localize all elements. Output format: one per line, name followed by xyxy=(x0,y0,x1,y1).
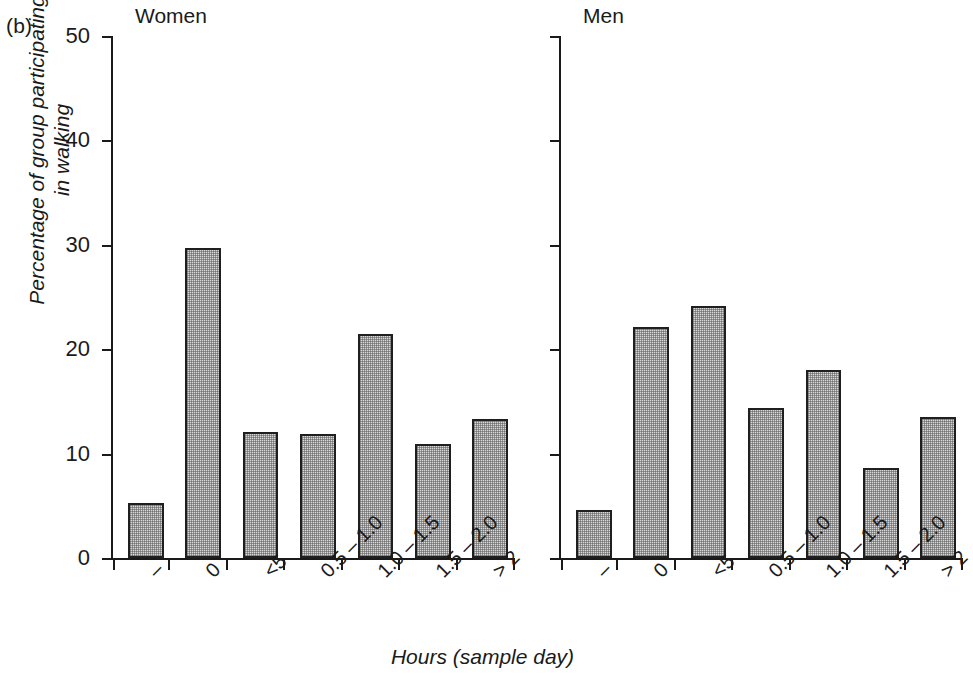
y-axis-tick xyxy=(102,245,112,247)
plot-area-men xyxy=(561,36,963,558)
x-axis-category-label: 0 xyxy=(201,558,225,582)
chart-panel-men: Men xyxy=(559,36,963,560)
x-axis-category-label: 0 xyxy=(649,558,673,582)
bar xyxy=(300,434,336,558)
x-axis-tick xyxy=(226,560,228,570)
y-axis-tick xyxy=(102,140,112,142)
x-axis-tick xyxy=(616,560,618,570)
y-axis-tick xyxy=(550,558,560,560)
y-axis-tick-labels: 01020304050 xyxy=(42,0,90,680)
panel-title-women: Women xyxy=(135,4,207,28)
x-axis-tick xyxy=(561,560,563,570)
bar xyxy=(243,432,279,558)
x-axis-tick xyxy=(113,560,115,570)
y-axis-tick-label: 0 xyxy=(44,545,90,571)
x-axis-category-label: – xyxy=(144,558,168,582)
bar xyxy=(691,306,727,558)
y-axis-tick-label: 20 xyxy=(44,336,90,362)
y-axis-tick-label: 50 xyxy=(44,23,90,49)
bar xyxy=(185,248,221,558)
y-axis-tick xyxy=(550,349,560,351)
y-axis-tick xyxy=(550,245,560,247)
panel-title-men: Men xyxy=(583,4,624,28)
x-axis-category-label: – xyxy=(592,558,616,582)
y-axis-tick xyxy=(550,36,560,38)
y-axis-tick xyxy=(102,36,112,38)
y-axis-tick xyxy=(102,349,112,351)
bar xyxy=(748,408,784,558)
bar xyxy=(576,510,612,558)
bar xyxy=(128,503,164,558)
y-axis-tick-label: 40 xyxy=(44,127,90,153)
x-axis-tick xyxy=(674,560,676,570)
y-axis-tick-label: 10 xyxy=(44,441,90,467)
chart-panel-women: Women xyxy=(111,36,515,560)
y-axis-tick xyxy=(550,140,560,142)
bar xyxy=(633,327,669,558)
y-axis-tick-label: 30 xyxy=(44,232,90,258)
plot-area-women xyxy=(113,36,515,558)
y-axis-tick xyxy=(550,454,560,456)
x-axis-tick xyxy=(168,560,170,570)
x-axis-title: Hours (sample day) xyxy=(0,645,965,669)
y-axis-tick xyxy=(102,558,112,560)
y-axis-tick xyxy=(102,454,112,456)
